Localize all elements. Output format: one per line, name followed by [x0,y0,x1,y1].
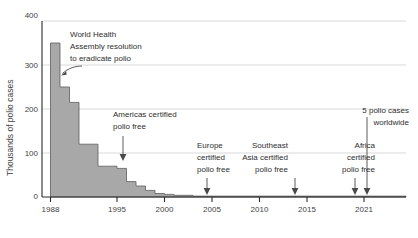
annotation-africa-line1: Africa [355,141,376,150]
x-tick-label-1995: 1995 [108,205,126,214]
annotation-wha-line3: to eradicate polio [70,54,131,63]
x-tick-labels: 1988 1995 2000 2005 2010 2015 2021 [42,205,374,214]
annotation-europe-arrowhead [204,188,211,195]
annotation-americas-arrowhead [120,154,127,161]
annotation-southeast-line2: Asia certified [242,153,288,162]
x-tick-marks [51,197,365,202]
annotation-africa-line3: polio free [342,165,375,174]
annotation-southeast-line1: Southeast [252,141,289,150]
y-tick-label-0: 0 [34,192,39,201]
annotation-worldwide-line2: worldwide [372,118,409,127]
annotation-africa-arrowhead [352,188,359,195]
annotation-wha-line1: World Health [70,30,116,39]
x-tick-label-2015: 2015 [298,205,316,214]
annotation-europe-line3: polio free [197,165,230,174]
annotation-africa-certified: Africa certified polio free [342,141,375,195]
y-axis-title: Thousands of polio cases [5,80,15,176]
annotation-europe-line1: Europe [197,141,223,150]
polio-cases-chart: 400 300 200 100 0 1988 1995 2000 2005 20… [0,0,418,238]
x-tick-label-1988: 1988 [42,205,60,214]
annotation-five-cases-worldwide: 5 polio cases worldwide [362,106,409,195]
gridlines [42,21,406,153]
annotation-southeast-line3: polio free [255,165,288,174]
annotation-wha-resolution: World Health Assembly resolution to erad… [61,30,142,76]
annotation-europe-line2: certified [197,153,225,162]
x-tick-label-2010: 2010 [251,205,269,214]
annotation-wha-line2: Assembly resolution [70,42,142,51]
annotation-americas-certified: Americas certified polio free [113,110,177,161]
x-tick-label-2021: 2021 [355,205,373,214]
annotation-southeast-asia-certified: Southeast Asia certified polio free [242,141,298,195]
annotation-americas-line1: Americas certified [113,110,177,119]
y-tick-label-300: 300 [25,61,39,70]
y-tick-label-200: 200 [25,105,39,114]
y-tick-label-400: 400 [25,11,39,20]
y-tick-labels: 400 300 200 100 0 [25,11,39,201]
annotation-europe-certified: Europe certified polio free [197,141,230,195]
x-tick-label-2005: 2005 [203,205,221,214]
annotation-americas-line2: polio free [113,122,146,131]
annotation-southeast-arrowhead [292,188,299,195]
annotation-worldwide-line1: 5 polio cases [362,106,409,115]
annotation-worldwide-arrowhead [364,188,371,195]
x-tick-label-2000: 2000 [156,205,174,214]
annotation-africa-line2: certified [347,153,375,162]
y-tick-label-100: 100 [25,149,39,158]
